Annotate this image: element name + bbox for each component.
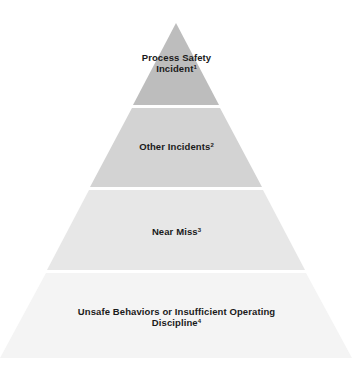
tier-3-label-line-1: Near Miss — [152, 226, 198, 237]
tier-1-footnote: 1 — [193, 64, 196, 70]
tier-4-label-line-2: Discipline — [152, 317, 198, 328]
tier-2-footnote: 2 — [210, 142, 213, 148]
tier-3-footnote: 3 — [198, 227, 201, 233]
tier-1-label-line-1: Process Safety — [0, 52, 353, 63]
tier-2-label: Other Incidents2 — [0, 141, 353, 152]
tier-4-label: Unsafe Behaviors or Insufficient Operati… — [0, 306, 353, 328]
tier-2-label-line-1: Other Incidents — [139, 141, 210, 152]
tier-4-label-line-1: Unsafe Behaviors or Insufficient Operati… — [0, 306, 353, 317]
tier-3-label: Near Miss3 — [0, 226, 353, 237]
tier-1-label-line-2: Incident — [156, 63, 193, 74]
tier-1-label: Process Safety Incident1 — [0, 52, 353, 74]
tier-4-footnote: 4 — [198, 318, 201, 324]
